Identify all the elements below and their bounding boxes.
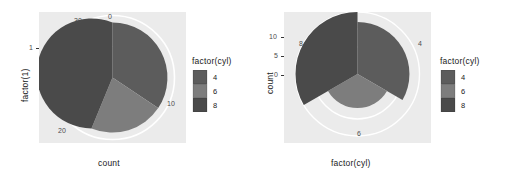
coxcomb-svg [284,12,431,143]
coxcomb-legend-swatch-8 [441,98,455,112]
figure-container: 0 10 20 30 1 factor(1) count factor(cyl)… [0,0,511,181]
coxcomb-y-tick-mark-0 [281,75,284,76]
pie-radial-tick-20: 20 [58,127,66,134]
coxcomb-legend-swatch-4 [441,70,455,84]
pie-legend-key-4 [192,70,208,84]
pie-legend-swatch-8 [193,98,207,112]
coxcomb-y-tick-mark-5 [281,56,284,57]
pie-legend-key-8 [192,98,208,112]
pie-legend-item-6[interactable]: 6 [192,84,232,98]
pie-legend-item-8[interactable]: 8 [192,98,232,112]
coxcomb-y-axis-title: count [265,72,275,94]
pie-plot-area [39,12,186,143]
pie-legend-key-6 [192,84,208,98]
pie-chart: 0 10 20 30 1 factor(1) count factor(cyl)… [0,0,256,181]
coxcomb-legend-label-8: 8 [461,101,465,110]
coxcomb-angular-tick-4: 4 [418,40,422,47]
pie-radial-tick-30: 30 [74,17,82,24]
coxcomb-chart: 10 5 0 8 4 6 count factor(cyl) factor(cy… [256,0,511,181]
pie-radial-tick-10: 10 [167,100,175,107]
coxcomb-angular-tick-6: 6 [357,130,361,137]
coxcomb-legend: factor(cyl) 4 6 8 [440,56,480,112]
pie-y-tick-mark [36,48,39,49]
coxcomb-legend-label-4: 4 [461,73,465,82]
pie-legend-swatch-6 [193,84,207,98]
coxcomb-legend-item-8[interactable]: 8 [440,98,480,112]
pie-legend-swatch-4 [193,70,207,84]
coxcomb-legend-key-6 [440,84,456,98]
coxcomb-legend-item-4[interactable]: 4 [440,70,480,84]
pie-y-tick-1: 1 [29,44,33,51]
coxcomb-legend-key-8 [440,98,456,112]
pie-legend-label-6: 6 [213,87,217,96]
pie-radial-tick-0: 0 [108,13,112,20]
pie-svg [39,12,186,143]
pie-legend-label-8: 8 [213,101,217,110]
coxcomb-legend-key-4 [440,70,456,84]
pie-legend-item-4[interactable]: 4 [192,70,232,84]
coxcomb-legend-title: factor(cyl) [440,56,480,66]
coxcomb-y-tick-5: 5 [274,52,278,59]
coxcomb-x-axis-title: factor(cyl) [331,158,371,168]
coxcomb-angular-tick-8: 8 [299,40,303,47]
pie-legend-title: factor(cyl) [192,56,232,66]
pie-x-axis-title: count [98,158,120,168]
coxcomb-y-tick-mark-10 [281,37,284,38]
coxcomb-legend-swatch-6 [441,84,455,98]
coxcomb-y-tick-10: 10 [269,33,277,40]
coxcomb-legend-item-6[interactable]: 6 [440,84,480,98]
pie-legend-label-4: 4 [213,73,217,82]
pie-legend: factor(cyl) 4 6 8 [192,56,232,112]
coxcomb-legend-label-6: 6 [461,87,465,96]
coxcomb-plot-area [284,12,431,143]
pie-y-axis-title: factor(1) [20,69,30,102]
